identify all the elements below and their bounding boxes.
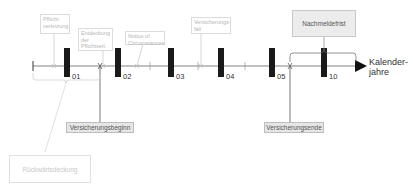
year-label-05: 05 [277, 72, 285, 81]
year-marker-bars [64, 48, 327, 77]
event-pflichtverletzung: Pflicht- verletzung [40, 14, 70, 34]
versicherungsende-box: Versicherungsende [264, 122, 324, 133]
axis-label: Kalender- jahre [369, 57, 408, 77]
versicherungsbeginn-mark [98, 63, 102, 122]
axis-arrow-icon [355, 60, 367, 72]
nachmeldefrist-box: Nachmeldefrist [292, 10, 356, 37]
year-label-03: 03 [176, 72, 184, 81]
year-label-02: 02 [123, 72, 131, 81]
year-label-10: 10 [329, 72, 337, 81]
rueckwaertsdeckung-box: Rückwärtsdeckung [9, 155, 91, 183]
year-label-04: 04 [226, 72, 234, 81]
event-notice-of-circumstances: Notice of Circumstances [125, 31, 165, 45]
event-entdeckung: Entdeckung der Pflichtverl. [78, 28, 113, 51]
timeline-diagram: 01 02 03 04 05 10 Kalender- jahre Pflich… [0, 0, 413, 187]
versicherungsende-mark [288, 63, 292, 122]
versicherungsbeginn-box: Versicherungsbeginn [66, 122, 134, 133]
rueckwaertsdeckung-connector [45, 83, 66, 152]
event-versicherungsfall: Versicherungs- fall [191, 17, 231, 34]
year-label-01: 01 [72, 72, 80, 81]
